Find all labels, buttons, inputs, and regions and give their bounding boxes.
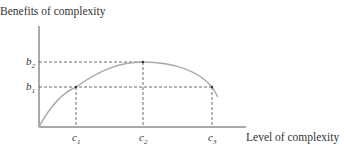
x-axis-label: Level of complexity	[246, 131, 339, 143]
benefit-curve	[39, 62, 218, 127]
tick-c3: c3	[208, 131, 216, 146]
tick-b2: b2	[26, 55, 35, 70]
tick-c2: c2	[139, 131, 147, 146]
tick-b1: b1	[26, 80, 35, 95]
tick-c1: c1	[72, 131, 80, 146]
